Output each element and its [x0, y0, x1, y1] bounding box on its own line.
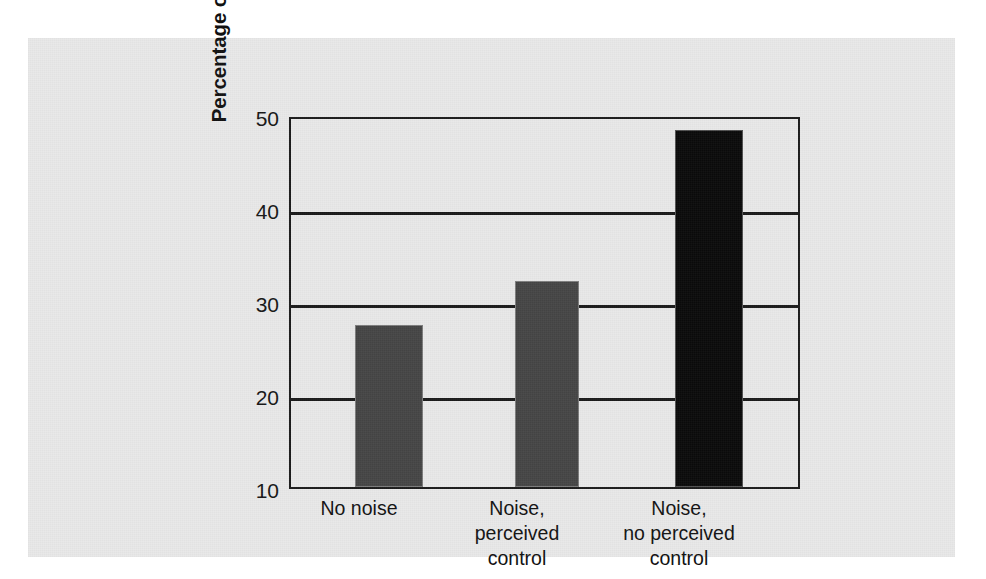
plot-area: 1020304050 — [289, 117, 800, 489]
bar — [675, 130, 743, 487]
x-axis-category-label: Noise, perceived control — [427, 496, 607, 571]
figure-container: Percentage of errors in problem solving … — [0, 0, 986, 579]
x-axis-category-label: Noise, no perceived control — [589, 496, 769, 571]
chart-panel: Percentage of errors in problem solving … — [28, 38, 955, 557]
x-axis-category-label: No noise — [269, 496, 449, 521]
y-axis-tick-label: 50 — [256, 107, 279, 131]
y-axis-title: Percentage of errors in problem solving — [204, 0, 234, 128]
bar — [355, 325, 423, 487]
y-axis-tick-label: 20 — [256, 386, 279, 410]
y-axis-tick-label: 40 — [256, 200, 279, 224]
bar — [515, 281, 579, 487]
y-axis-tick-label: 30 — [256, 293, 279, 317]
